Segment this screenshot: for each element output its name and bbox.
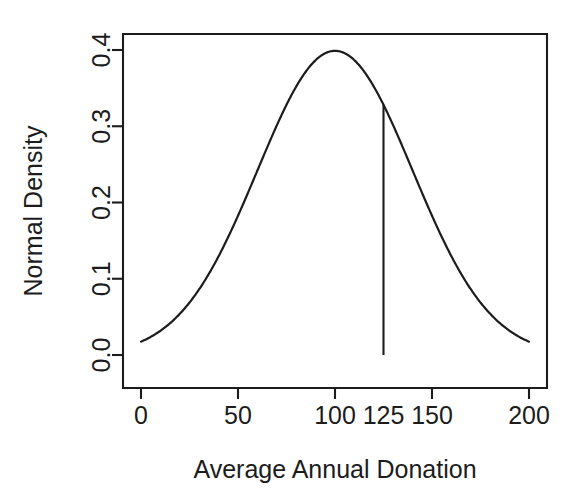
x-tick-label-50: 50 xyxy=(224,401,252,429)
density-curve-group xyxy=(141,51,529,342)
y-tick-label-0.4: 0.4 xyxy=(87,33,115,68)
y-tick-label-0.0: 0.0 xyxy=(87,338,115,373)
x-tick-label-125: 125 xyxy=(363,401,405,429)
normal-density-plot: 050100125150200 0.00.10.20.30.4 Average … xyxy=(0,0,581,504)
chart-figure: 050100125150200 0.00.10.20.30.4 Average … xyxy=(0,0,581,504)
x-tick-label-0: 0 xyxy=(134,401,148,429)
x-axis-title: Average Annual Donation xyxy=(193,455,476,483)
plot-box-frame xyxy=(123,34,547,388)
x-tick-label-200: 200 xyxy=(508,401,550,429)
y-axis-tick-labels: 0.00.10.20.30.4 xyxy=(87,33,115,373)
x-axis-tick-labels: 050100125150200 xyxy=(134,401,550,429)
y-axis-title: Normal Density xyxy=(19,125,47,296)
x-axis-ticks xyxy=(141,388,529,399)
y-tick-label-0.3: 0.3 xyxy=(87,109,115,144)
y-tick-label-0.1: 0.1 xyxy=(87,261,115,296)
y-tick-label-0.2: 0.2 xyxy=(87,185,115,220)
x-tick-label-100: 100 xyxy=(314,401,356,429)
x-tick-label-150: 150 xyxy=(411,401,453,429)
